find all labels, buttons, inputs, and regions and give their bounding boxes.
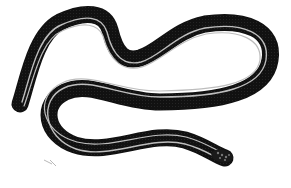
artist-signature	[44, 160, 56, 166]
snake-drawing	[0, 0, 291, 188]
snake-illustration	[0, 0, 291, 188]
snake-body	[20, 14, 271, 160]
